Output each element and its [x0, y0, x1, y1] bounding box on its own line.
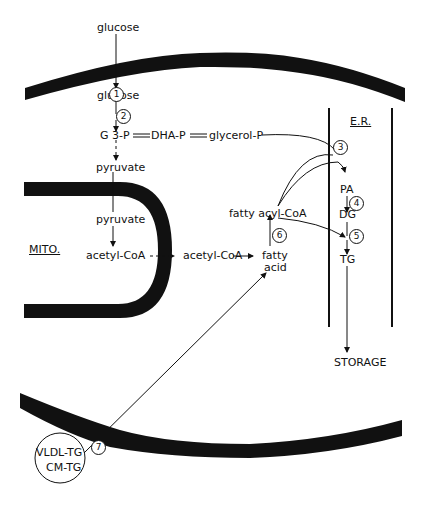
pa-label: PA	[340, 184, 353, 195]
fatty-acyl-coa-label: fatty acyl-CoA	[229, 208, 307, 219]
g3p-label: G 3-P	[100, 130, 130, 141]
cell-membrane-top	[25, 53, 405, 102]
tg-label: TG	[340, 254, 355, 265]
mito-label: MITO.	[29, 244, 60, 255]
step-5-badge: 5	[349, 229, 364, 244]
fatty-acid-label-1: fatty	[262, 250, 288, 261]
er-label: E.R.	[350, 116, 371, 127]
step-7-badge: 7	[91, 440, 106, 455]
storage-label: STORAGE	[334, 357, 386, 368]
step-6-badge: 6	[272, 228, 287, 243]
acetyl-coa-cytosol: acetyl-CoA	[183, 250, 242, 261]
vldl-tg-label: VLDL-TG	[36, 447, 82, 458]
fatty-acid-label-2: acid	[264, 262, 287, 273]
step-1-badge: 1	[109, 87, 124, 102]
glucose-extracellular: glucose	[97, 22, 139, 33]
pyruvate-cytosol: pyruvate	[96, 162, 145, 173]
step-2-badge: 2	[116, 109, 131, 124]
pyruvate-mito: pyruvate	[96, 214, 145, 225]
step-3-badge: 3	[333, 140, 348, 155]
step-4-badge: 4	[349, 196, 364, 211]
acetyl-coa-mito: acetyl-CoA	[86, 250, 145, 261]
cm-tg-label: CM-TG	[46, 462, 81, 473]
glycerol-p-label: glycerol-P	[209, 130, 263, 141]
dhap-label: DHA-P	[151, 130, 186, 141]
